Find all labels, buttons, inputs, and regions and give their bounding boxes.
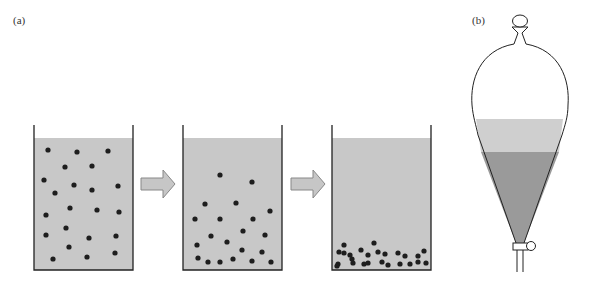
particle — [395, 250, 400, 255]
particle — [361, 261, 366, 266]
lower-layer — [481, 152, 559, 243]
particle — [423, 260, 428, 265]
particle — [375, 249, 380, 254]
particle — [397, 261, 402, 266]
particle — [336, 249, 341, 254]
particle — [105, 148, 110, 153]
particle — [43, 232, 48, 237]
particle — [421, 248, 426, 253]
particle — [268, 259, 273, 264]
particle — [43, 212, 48, 217]
particle — [249, 258, 254, 263]
particle — [84, 254, 89, 259]
particle — [67, 205, 72, 210]
particle — [233, 200, 238, 205]
particle — [195, 255, 200, 260]
particle — [379, 259, 384, 264]
upper-layer — [476, 119, 563, 152]
particle — [112, 250, 117, 255]
stopcock-handle[interactable] — [527, 242, 536, 251]
particle — [63, 225, 68, 230]
particle — [341, 242, 346, 247]
stopcock-body[interactable] — [513, 243, 528, 250]
particle — [89, 163, 94, 168]
beaker-settled — [332, 125, 431, 270]
particle — [89, 187, 94, 192]
beaker-settling — [183, 125, 282, 270]
particle — [205, 259, 210, 264]
particle — [240, 228, 245, 233]
diagram-canvas — [0, 0, 598, 282]
particle — [86, 235, 91, 240]
particle — [358, 247, 363, 252]
particle — [250, 216, 255, 221]
particle — [415, 253, 420, 258]
particle — [371, 240, 376, 245]
particle — [113, 233, 118, 238]
particle — [71, 182, 76, 187]
liquid — [332, 138, 431, 270]
particle — [66, 244, 71, 249]
particle — [224, 239, 229, 244]
particle — [239, 247, 244, 252]
particle — [194, 242, 199, 247]
particle — [115, 183, 120, 188]
particle — [385, 262, 390, 267]
particle — [94, 207, 99, 212]
beaker-group — [34, 125, 431, 270]
particle — [202, 201, 207, 206]
particle — [50, 256, 55, 261]
particle — [415, 259, 420, 264]
particle — [341, 250, 346, 255]
arrow-1-icon — [141, 170, 175, 198]
particle — [407, 261, 412, 266]
particle — [52, 190, 57, 195]
stopper[interactable] — [513, 15, 528, 27]
particle — [45, 147, 50, 152]
particle — [382, 251, 387, 256]
particle — [192, 216, 197, 221]
particle — [267, 208, 272, 213]
particle — [217, 216, 222, 221]
particle — [402, 253, 407, 258]
particle — [334, 263, 339, 268]
particle — [62, 164, 67, 169]
particle — [208, 233, 213, 238]
funnel-neck — [512, 27, 528, 44]
arrow-2-icon — [291, 170, 325, 198]
particle — [74, 149, 79, 154]
particle — [217, 259, 222, 264]
liquid — [183, 138, 282, 270]
particle — [116, 209, 121, 214]
particle — [365, 252, 370, 257]
particle — [259, 249, 264, 254]
separatory-funnel — [472, 15, 568, 272]
liquid — [34, 138, 133, 270]
particle — [350, 260, 355, 265]
particle — [41, 177, 46, 182]
particle — [262, 232, 267, 237]
beaker-suspended — [34, 125, 133, 270]
particle — [217, 172, 222, 177]
particle — [249, 179, 254, 184]
particle — [230, 256, 235, 261]
